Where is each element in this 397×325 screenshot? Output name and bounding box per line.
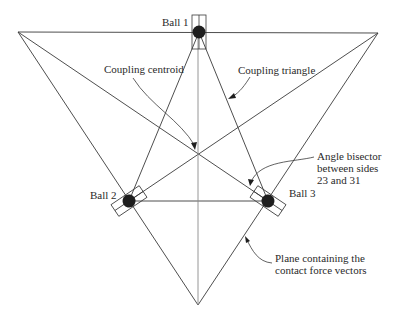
bisector-arrow-icon bbox=[248, 179, 254, 186]
label-centroid: Coupling centroid bbox=[104, 63, 184, 75]
bisector-leader bbox=[251, 157, 314, 182]
centroid-arrow-icon bbox=[191, 142, 197, 150]
label-ball1: Ball 1 bbox=[162, 16, 189, 28]
centroid-leader bbox=[133, 78, 195, 146]
label-triangle: Coupling triangle bbox=[238, 64, 315, 76]
ball-1-icon bbox=[193, 26, 206, 39]
label-bisector-2: between sides bbox=[317, 162, 378, 174]
coupling-diagram: Ball 1 Ball 2 Ball 3 Coupling centroid C… bbox=[0, 0, 397, 325]
triangle-leader bbox=[232, 77, 250, 97]
label-ball3: Ball 3 bbox=[289, 187, 316, 199]
coupling-side-12 bbox=[129, 32, 199, 201]
plane-leader bbox=[247, 240, 272, 263]
label-bisector-1: Angle bisector bbox=[317, 150, 382, 162]
ball-3-icon bbox=[259, 192, 277, 210]
label-plane-1: Plane containing the bbox=[275, 252, 365, 264]
ball-2-icon bbox=[120, 192, 138, 210]
plane-arrow-icon bbox=[245, 236, 250, 243]
label-plane-2: contact force vectors bbox=[275, 264, 367, 276]
coupling-side-13 bbox=[199, 32, 268, 201]
label-bisector-3: 23 and 31 bbox=[317, 174, 360, 186]
ball-3 bbox=[250, 186, 286, 217]
triangle-arrow-icon bbox=[228, 93, 236, 99]
label-ball2: Ball 2 bbox=[90, 189, 117, 201]
bisector-ball3 bbox=[18, 32, 268, 201]
